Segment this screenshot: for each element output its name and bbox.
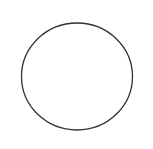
canvas bbox=[0, 0, 153, 149]
circle-outline bbox=[22, 23, 133, 130]
